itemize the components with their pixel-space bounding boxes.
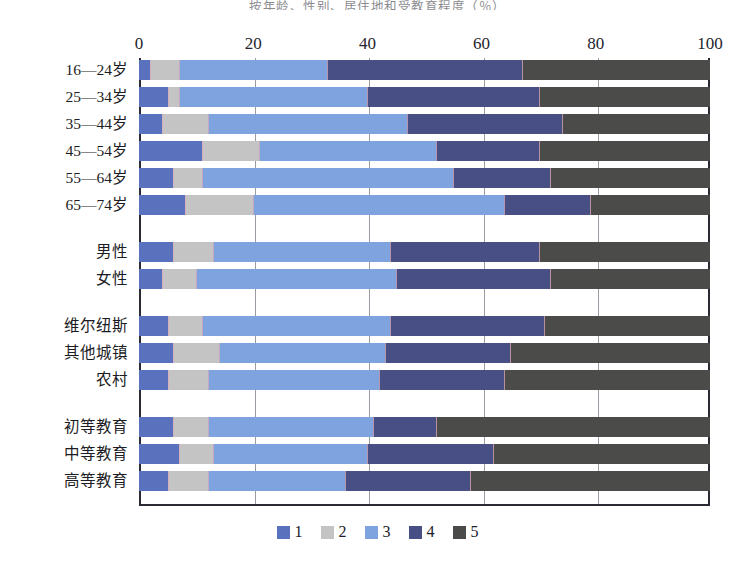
bar-row[interactable] <box>139 114 710 134</box>
bar-segment-5[interactable] <box>539 242 710 262</box>
bar-segment-5[interactable] <box>550 269 710 289</box>
bar-segment-4[interactable] <box>345 471 471 491</box>
legend-label: 2 <box>339 524 347 540</box>
bar-segment-4[interactable] <box>385 343 511 363</box>
bar-row[interactable] <box>139 195 710 215</box>
bar-segment-5[interactable] <box>493 444 710 464</box>
bar-segment-1[interactable] <box>139 417 173 437</box>
bar-row[interactable] <box>139 444 710 464</box>
legend-item-1[interactable]: 1 <box>277 524 303 540</box>
bar-segment-2[interactable] <box>173 242 213 262</box>
bar-row[interactable] <box>139 60 710 80</box>
bar-segment-2[interactable] <box>168 316 202 336</box>
bar-segment-3[interactable] <box>179 60 327 80</box>
bar-segment-1[interactable] <box>139 269 162 289</box>
bar-segment-4[interactable] <box>367 444 493 464</box>
bar-row[interactable] <box>139 316 710 336</box>
x-axis-tick-labels: 020406080100 <box>0 34 755 58</box>
bar-segment-5[interactable] <box>522 60 710 80</box>
bar-segment-5[interactable] <box>544 316 710 336</box>
bar-segment-5[interactable] <box>562 114 710 134</box>
bar-segment-4[interactable] <box>390 316 544 336</box>
bar-segment-3[interactable] <box>208 370 379 390</box>
bar-segment-4[interactable] <box>436 141 539 161</box>
bar-segment-4[interactable] <box>453 168 550 188</box>
legend-item-3[interactable]: 3 <box>365 524 391 540</box>
bar-segment-3[interactable] <box>208 471 345 491</box>
bar-segment-4[interactable] <box>396 269 550 289</box>
bar-row[interactable] <box>139 471 710 491</box>
bar-segment-2[interactable] <box>173 417 207 437</box>
bar-segment-1[interactable] <box>139 114 162 134</box>
category-labels: 16—24岁25—34岁35—44岁45—54岁55—64岁65—74岁男性女性… <box>0 58 134 506</box>
bar-segment-1[interactable] <box>139 370 168 390</box>
bar-segment-3[interactable] <box>202 168 453 188</box>
bar-segment-4[interactable] <box>379 370 505 390</box>
bar-segment-4[interactable] <box>373 417 436 437</box>
category-label: 男性 <box>0 242 128 262</box>
chart-title: 按年龄、性别、居住地和受教育程度（％） <box>0 0 755 10</box>
bar-row[interactable] <box>139 87 710 107</box>
bar-segment-1[interactable] <box>139 444 179 464</box>
bar-segment-2[interactable] <box>168 87 179 107</box>
legend-label: 4 <box>427 524 435 540</box>
bar-segment-5[interactable] <box>539 141 710 161</box>
category-label: 农村 <box>0 370 128 390</box>
bar-segment-1[interactable] <box>139 141 202 161</box>
bar-segment-3[interactable] <box>213 242 390 262</box>
bar-row[interactable] <box>139 168 710 188</box>
legend-item-5[interactable]: 5 <box>453 524 479 540</box>
bar-segment-5[interactable] <box>436 417 710 437</box>
bar-row[interactable] <box>139 242 710 262</box>
bar-segment-2[interactable] <box>162 269 196 289</box>
bar-segment-3[interactable] <box>253 195 504 215</box>
bar-segment-2[interactable] <box>168 471 208 491</box>
bar-segment-3[interactable] <box>208 114 408 134</box>
bar-segment-2[interactable] <box>173 168 202 188</box>
bar-segment-3[interactable] <box>196 269 396 289</box>
bar-segment-2[interactable] <box>179 444 213 464</box>
bar-segment-5[interactable] <box>470 471 710 491</box>
bar-segment-2[interactable] <box>162 114 208 134</box>
category-label: 55—64岁 <box>0 168 128 188</box>
bar-segment-4[interactable] <box>407 114 561 134</box>
bar-segment-5[interactable] <box>590 195 710 215</box>
bar-segment-2[interactable] <box>150 60 179 80</box>
bar-segment-4[interactable] <box>367 87 538 107</box>
legend-item-2[interactable]: 2 <box>321 524 347 540</box>
bar-row[interactable] <box>139 370 710 390</box>
bar-row[interactable] <box>139 343 710 363</box>
bar-segment-1[interactable] <box>139 60 150 80</box>
bar-segment-4[interactable] <box>327 60 521 80</box>
bar-segment-2[interactable] <box>173 343 219 363</box>
bar-segment-2[interactable] <box>202 141 259 161</box>
bar-segment-2[interactable] <box>185 195 254 215</box>
bar-segment-4[interactable] <box>504 195 590 215</box>
bar-row[interactable] <box>139 417 710 437</box>
bar-segment-5[interactable] <box>539 87 710 107</box>
category-label: 45—54岁 <box>0 141 128 161</box>
bar-segment-1[interactable] <box>139 242 173 262</box>
bar-segment-5[interactable] <box>510 343 710 363</box>
category-label: 16—24岁 <box>0 60 128 80</box>
bar-row[interactable] <box>139 141 710 161</box>
bar-segment-5[interactable] <box>504 370 710 390</box>
bar-segment-3[interactable] <box>202 316 390 336</box>
bar-segment-3[interactable] <box>219 343 385 363</box>
bar-segment-1[interactable] <box>139 168 173 188</box>
bar-segment-3[interactable] <box>179 87 367 107</box>
bar-segment-1[interactable] <box>139 343 173 363</box>
category-label: 其他城镇 <box>0 343 128 363</box>
bar-segment-1[interactable] <box>139 87 168 107</box>
bar-segment-2[interactable] <box>168 370 208 390</box>
legend-item-4[interactable]: 4 <box>409 524 435 540</box>
bar-row[interactable] <box>139 269 710 289</box>
bar-segment-3[interactable] <box>208 417 374 437</box>
bar-segment-3[interactable] <box>213 444 367 464</box>
bar-segment-4[interactable] <box>390 242 538 262</box>
bar-segment-1[interactable] <box>139 316 168 336</box>
bar-segment-1[interactable] <box>139 471 168 491</box>
bar-segment-3[interactable] <box>259 141 436 161</box>
bar-segment-1[interactable] <box>139 195 185 215</box>
bar-segment-5[interactable] <box>550 168 710 188</box>
